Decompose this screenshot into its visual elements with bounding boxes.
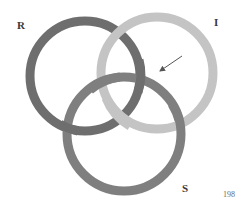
ring-s-overcrossing-2 — [172, 104, 179, 120]
label-r: R — [17, 20, 25, 31]
arrow-pointer — [160, 56, 182, 71]
borromean-rings-diagram — [0, 0, 248, 213]
ring-r-overcrossing-2 — [60, 124, 78, 131]
ring-r-overcrossing — [138, 60, 141, 92]
label-s: S — [182, 183, 188, 194]
label-i: I — [214, 17, 218, 28]
page-number: 198 — [223, 191, 235, 199]
